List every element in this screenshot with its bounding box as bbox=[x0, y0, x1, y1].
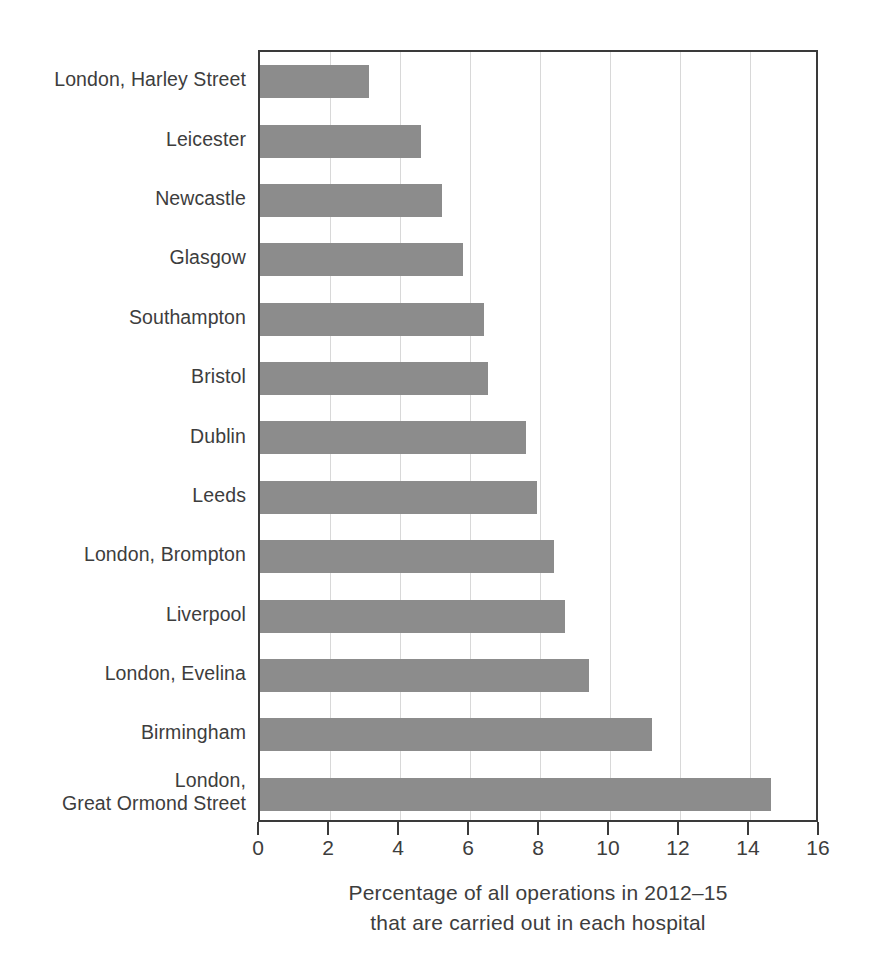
x-tick-label: 0 bbox=[252, 836, 264, 860]
x-axis-caption: Percentage of all operations in 2012–15 … bbox=[230, 878, 846, 938]
bar-row bbox=[260, 646, 820, 705]
category-label: London, Brompton bbox=[8, 543, 258, 566]
bar-series bbox=[260, 52, 816, 820]
category-label: Newcastle bbox=[8, 187, 258, 210]
x-tick bbox=[747, 822, 749, 835]
x-tick-label: 10 bbox=[596, 836, 619, 860]
x-tick-label: 4 bbox=[392, 836, 404, 860]
bar bbox=[260, 184, 442, 217]
bar bbox=[260, 600, 565, 633]
bar bbox=[260, 65, 369, 98]
bar-row bbox=[260, 705, 820, 764]
bar-row bbox=[260, 408, 820, 467]
x-tick bbox=[257, 822, 259, 835]
plot-area bbox=[258, 50, 818, 822]
bar bbox=[260, 540, 554, 573]
bar-row bbox=[260, 468, 820, 527]
bar bbox=[260, 659, 589, 692]
caption-line-1: Percentage of all operations in 2012–15 bbox=[230, 878, 846, 908]
x-tick bbox=[537, 822, 539, 835]
bar-row bbox=[260, 586, 820, 645]
category-label: London, Harley Street bbox=[8, 68, 258, 91]
bar-row bbox=[260, 527, 820, 586]
category-label: London, Evelina bbox=[8, 662, 258, 685]
bar-row bbox=[260, 171, 820, 230]
bar-row bbox=[260, 349, 820, 408]
category-label: Liverpool bbox=[8, 603, 258, 626]
x-tick bbox=[327, 822, 329, 835]
x-tick-label: 16 bbox=[806, 836, 829, 860]
x-tick-label: 6 bbox=[462, 836, 474, 860]
bar-chart-figure: London, Harley StreetLeicesterNewcastleG… bbox=[0, 0, 874, 972]
x-tick bbox=[397, 822, 399, 835]
x-tick-label: 2 bbox=[322, 836, 334, 860]
x-tick-label: 12 bbox=[666, 836, 689, 860]
caption-line-2: that are carried out in each hospital bbox=[230, 908, 846, 938]
bar bbox=[260, 481, 537, 514]
bar bbox=[260, 303, 484, 336]
category-label: Leeds bbox=[8, 484, 258, 507]
category-label: Glasgow bbox=[8, 246, 258, 269]
x-tick-label: 14 bbox=[736, 836, 759, 860]
bar-row bbox=[260, 111, 820, 170]
category-label: Southampton bbox=[8, 306, 258, 329]
category-label: Bristol bbox=[8, 365, 258, 388]
x-tick-label: 8 bbox=[532, 836, 544, 860]
bar-row bbox=[260, 765, 820, 824]
category-label: London, Great Ormond Street bbox=[8, 769, 258, 815]
x-tick bbox=[607, 822, 609, 835]
bar-row bbox=[260, 290, 820, 349]
bar-row bbox=[260, 230, 820, 289]
category-label: Birmingham bbox=[8, 721, 258, 744]
bar bbox=[260, 243, 463, 276]
bar bbox=[260, 125, 421, 158]
bar-row bbox=[260, 52, 820, 111]
bar bbox=[260, 421, 526, 454]
x-axis: 0246810121416 bbox=[258, 822, 818, 836]
bar bbox=[260, 362, 488, 395]
bar bbox=[260, 718, 652, 751]
x-tick bbox=[467, 822, 469, 835]
y-axis-category-labels: London, Harley StreetLeicesterNewcastleG… bbox=[0, 50, 258, 822]
category-label: Dublin bbox=[8, 425, 258, 448]
x-tick bbox=[817, 822, 819, 835]
bar bbox=[260, 778, 771, 811]
x-tick bbox=[677, 822, 679, 835]
category-label: Leicester bbox=[8, 128, 258, 151]
